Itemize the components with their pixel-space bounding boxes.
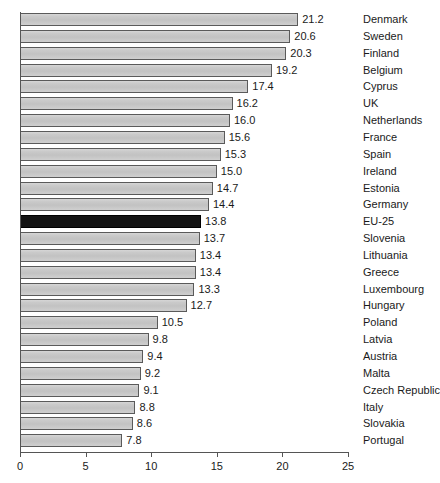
bar-slovakia[interactable] [20, 417, 133, 430]
category-label-belgium: Belgium [363, 62, 403, 78]
category-label-greece: Greece [363, 264, 399, 280]
bar-poland[interactable] [20, 316, 158, 329]
bar-ireland[interactable] [20, 165, 217, 178]
x-tick-label: 20 [276, 459, 288, 473]
bar-value-label: 7.8 [126, 433, 141, 447]
bar-row: 13.8EU-25 [0, 215, 430, 228]
bar-row: 15.0Ireland [0, 165, 430, 178]
bar-austria[interactable] [20, 350, 143, 363]
bar-value-label: 13.8 [205, 214, 226, 228]
bar-spain[interactable] [20, 148, 221, 161]
bar-row: 13.4Greece [0, 266, 430, 279]
bar-row: 13.3Luxembourg [0, 283, 430, 296]
bar-row: 15.6France [0, 131, 430, 144]
bar-value-label: 8.6 [137, 416, 152, 430]
bar-luxembourg[interactable] [20, 283, 194, 296]
bar-uk[interactable] [20, 97, 233, 110]
bar-value-label: 13.4 [200, 265, 221, 279]
bar-finland[interactable] [20, 47, 286, 60]
bar-denmark[interactable] [20, 13, 298, 26]
bar-row: 12.7Hungary [0, 299, 430, 312]
bar-value-label: 8.8 [139, 400, 154, 414]
bar-value-label: 12.7 [191, 298, 212, 312]
bar-france[interactable] [20, 131, 225, 144]
bar-row: 9.8Latvia [0, 333, 430, 346]
bar-row: 13.7Slovenia [0, 232, 430, 245]
bar-value-label: 14.4 [213, 197, 234, 211]
bar-greece[interactable] [20, 266, 196, 279]
bar-value-label: 9.4 [147, 349, 162, 363]
bar-value-label: 9.2 [145, 366, 160, 380]
category-label-lithuania: Lithuania [363, 247, 408, 263]
category-label-czech-republic: Czech Republic [363, 382, 440, 398]
bar-row: 14.4Germany [0, 198, 430, 211]
x-tick [348, 452, 349, 457]
bar-value-label: 9.1 [143, 383, 158, 397]
category-label-hungary: Hungary [363, 297, 405, 313]
x-axis-line [20, 452, 349, 453]
bar-malta[interactable] [20, 367, 141, 380]
category-label-estonia: Estonia [363, 180, 400, 196]
bar-value-label: 15.3 [225, 147, 246, 161]
bar-row: 17.4Cyprus [0, 80, 430, 93]
bar-lithuania[interactable] [20, 249, 196, 262]
category-label-portugal: Portugal [363, 432, 404, 448]
bar-germany[interactable] [20, 198, 209, 211]
bar-value-label: 20.3 [290, 46, 311, 60]
bar-eu-25[interactable] [20, 215, 201, 228]
bar-estonia[interactable] [20, 182, 213, 195]
bar-row: 14.7Estonia [0, 182, 430, 195]
bar-value-label: 16.2 [237, 96, 258, 110]
bar-sweden[interactable] [20, 30, 290, 43]
bar-latvia[interactable] [20, 333, 149, 346]
bar-row: 15.3Spain [0, 148, 430, 161]
x-tick [282, 452, 283, 457]
category-label-austria: Austria [363, 348, 397, 364]
bar-row: 10.5Poland [0, 316, 430, 329]
category-label-germany: Germany [363, 196, 408, 212]
x-tick-label: 15 [211, 459, 223, 473]
bar-value-label: 10.5 [162, 315, 183, 329]
bar-hungary[interactable] [20, 299, 187, 312]
x-tick [217, 452, 218, 457]
bar-portugal[interactable] [20, 434, 122, 447]
bar-cyprus[interactable] [20, 80, 248, 93]
bar-row: 19.2Belgium [0, 64, 430, 77]
bar-value-label: 13.7 [204, 231, 225, 245]
bar-row: 9.2Malta [0, 367, 430, 380]
bar-row: 16.2UK [0, 97, 430, 110]
bar-italy[interactable] [20, 401, 135, 414]
bar-row: 16.0Netherlands [0, 114, 430, 127]
bar-value-label: 13.3 [198, 282, 219, 296]
category-label-slovenia: Slovenia [363, 230, 405, 246]
category-label-france: France [363, 129, 397, 145]
bar-row: 8.6Slovakia [0, 417, 430, 430]
bar-value-label: 20.6 [294, 29, 315, 43]
bar-netherlands[interactable] [20, 114, 230, 127]
category-label-denmark: Denmark [363, 11, 408, 27]
bar-row: 9.1Czech Republic [0, 384, 430, 397]
category-label-slovakia: Slovakia [363, 415, 405, 431]
x-tick-label: 10 [145, 459, 157, 473]
category-label-spain: Spain [363, 146, 391, 162]
bar-row: 20.3Finland [0, 47, 430, 60]
category-label-uk: UK [363, 95, 378, 111]
bar-row: 13.4Lithuania [0, 249, 430, 262]
category-label-ireland: Ireland [363, 163, 397, 179]
x-tick [86, 452, 87, 457]
bar-value-label: 9.8 [153, 332, 168, 346]
bar-row: 21.2Denmark [0, 13, 430, 26]
category-label-luxembourg: Luxembourg [363, 281, 424, 297]
bar-slovenia[interactable] [20, 232, 200, 245]
category-label-netherlands: Netherlands [363, 112, 422, 128]
x-tick [151, 452, 152, 457]
bar-czech-republic[interactable] [20, 384, 139, 397]
bar-row: 20.6Sweden [0, 30, 430, 43]
category-label-italy: Italy [363, 399, 383, 415]
bar-value-label: 16.0 [234, 113, 255, 127]
category-label-cyprus: Cyprus [363, 78, 398, 94]
category-label-poland: Poland [363, 314, 397, 330]
bar-row: 8.8Italy [0, 401, 430, 414]
bar-belgium[interactable] [20, 64, 272, 77]
